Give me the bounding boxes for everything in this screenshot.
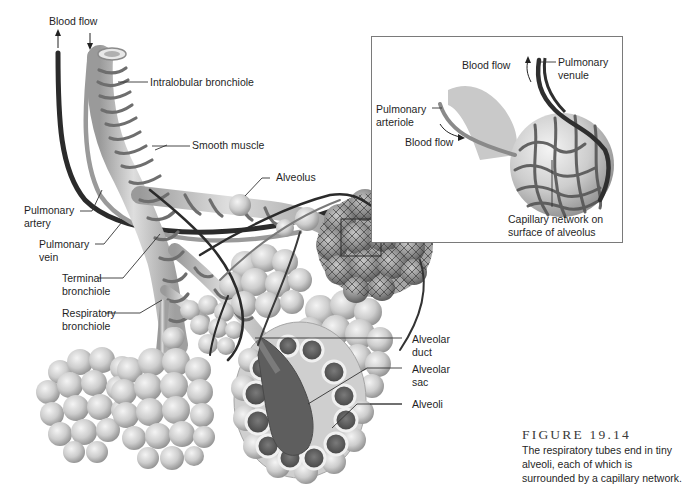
label-intralobular-bronchiole: Intralobular bronchiole [150, 76, 254, 89]
label-capillary-network: Capillary network on surface of alveolus [508, 213, 603, 238]
label-line: Alveolar [412, 333, 450, 346]
label-line: Respiratory [62, 307, 116, 320]
label-inset-blood-flow-in: Blood flow [405, 136, 453, 149]
label-respiratory-bronchiole: Respiratory bronchiole [62, 307, 116, 332]
label-pulmonary-vein: Pulmonary vein [39, 238, 89, 263]
label-line: sac [412, 376, 450, 389]
label-line: arteriole [376, 116, 426, 129]
label-line: bronchiole [62, 320, 116, 333]
label-line: vein [39, 251, 89, 264]
label-terminal-bronchiole: Terminal bronchiole [62, 272, 110, 297]
label-line: Pulmonary [39, 238, 89, 251]
blood-flow-arrows [55, 29, 93, 50]
label-line: duct [412, 346, 450, 359]
label-pulmonary-venule: Pulmonary venule [558, 56, 608, 81]
label-pulmonary-artery: Pulmonary artery [24, 204, 74, 229]
figure-number: FIGURE 19.14 [522, 427, 631, 443]
label-smooth-muscle: Smooth muscle [192, 139, 264, 152]
label-line: Alveolar [412, 363, 450, 376]
label-alveolus: Alveolus [276, 171, 316, 184]
label-line: Pulmonary [376, 103, 426, 116]
label-alveoli: Alveoli [412, 398, 443, 411]
label-line: surface of alveolus [508, 226, 603, 239]
figure-caption: The respiratory tubes end in tiny alveol… [522, 443, 682, 485]
label-line: Terminal [62, 272, 110, 285]
label-blood-flow-top: Blood flow [49, 15, 97, 28]
label-line: Pulmonary [24, 204, 74, 217]
label-line: artery [24, 217, 74, 230]
label-alveolar-duct: Alveolar duct [412, 333, 450, 358]
label-line: Pulmonary [558, 56, 608, 69]
label-line: venule [558, 69, 608, 82]
label-alveolar-sac: Alveolar sac [412, 363, 450, 388]
label-pulmonary-arteriole: Pulmonary arteriole [376, 103, 426, 128]
label-line: Capillary network on [508, 213, 603, 226]
label-inset-blood-flow-out: Blood flow [462, 59, 510, 72]
label-line: bronchiole [62, 285, 110, 298]
